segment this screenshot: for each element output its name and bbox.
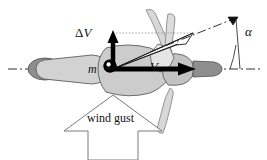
alpha-angle-construction	[230, 19, 240, 69]
delta-v-label: ΔV	[75, 26, 91, 39]
alpha-angle-label: α	[245, 25, 252, 38]
v-symbol: V	[83, 25, 91, 40]
diagram-canvas	[0, 0, 267, 160]
velocity-label: V	[150, 60, 158, 73]
rotor-blade-lower	[157, 88, 173, 133]
wind-gust-arrow	[64, 95, 162, 160]
center-of-mass-marker	[105, 61, 116, 72]
wind-gust-label: wind gust	[87, 112, 134, 124]
mass-label: m	[88, 63, 97, 75]
helicopter-gust-diagram: ΔV V m α wind gust	[0, 0, 267, 160]
nose-probe	[193, 61, 222, 77]
